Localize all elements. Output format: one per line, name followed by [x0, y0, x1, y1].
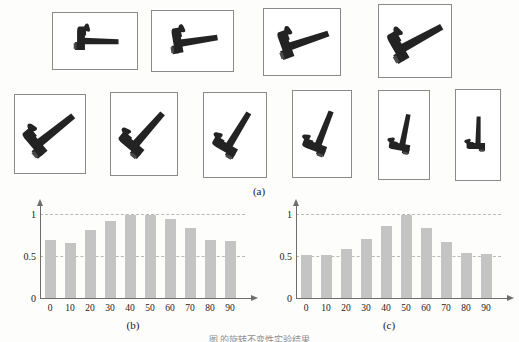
hammer-frame-30: [378, 4, 452, 78]
hammer-frame-90: [455, 89, 501, 181]
panel-a-label: (a): [234, 185, 284, 197]
bar-60: [165, 219, 176, 299]
chart-b-xtick-40: 40: [121, 303, 139, 313]
chart-c-gridline-1: [296, 214, 501, 215]
hammer-frame-0: [52, 12, 138, 70]
chart-b-xtick-20: 20: [81, 303, 99, 313]
bar-40: [125, 215, 136, 299]
chart-c-ytick-1: 1: [266, 209, 292, 220]
chart-c-xtick-70: 70: [437, 303, 455, 313]
bar-0: [301, 255, 312, 299]
chart-b-caption: (b): [8, 319, 258, 331]
chart-c-xtick-60: 60: [417, 303, 435, 313]
chart-c-xtick-10: 10: [317, 303, 335, 313]
chart-c-x-axis: [296, 298, 508, 299]
chart-b-xtick-90: 90: [221, 303, 239, 313]
chart-c-ytick-0: 0: [266, 293, 292, 304]
bar-70: [441, 242, 452, 299]
chart-b-ytick-0.5: 0.5: [10, 251, 36, 262]
chart-b-y-axis: [40, 205, 41, 299]
chart-b-ytick-1: 1: [10, 209, 36, 220]
bar-10: [321, 255, 332, 299]
chart-c-plot-area: [296, 211, 496, 299]
bar-30: [105, 221, 116, 299]
hammer-frame-40: [14, 94, 86, 174]
chart-c-y-axis: [296, 205, 297, 299]
bar-0: [45, 240, 56, 299]
chart-c-xtick-20: 20: [337, 303, 355, 313]
chart-c-caption: (c): [264, 319, 514, 331]
bar-80: [461, 253, 472, 299]
chart-b-xtick-80: 80: [201, 303, 219, 313]
chart-b-xtick-10: 10: [61, 303, 79, 313]
chart-b-xtick-60: 60: [161, 303, 179, 313]
bar-40: [381, 226, 392, 299]
chart-b-ytick-0: 0: [10, 293, 36, 304]
chart-b-gridline-1: [40, 214, 245, 215]
chart-b-x-axis: [40, 298, 252, 299]
bar-50: [401, 215, 412, 299]
chart-c-xtick-40: 40: [377, 303, 395, 313]
hammer-gallery: [0, 0, 519, 200]
hammer-frame-60: [203, 92, 267, 178]
hammer-frame-70: [292, 90, 352, 178]
hammer-frame-50: [110, 92, 178, 176]
bar-70: [185, 228, 196, 299]
chart-b-xtick-70: 70: [181, 303, 199, 313]
chart-c-xtick-30: 30: [357, 303, 375, 313]
chart-b-xtick-50: 50: [141, 303, 159, 313]
bar-10: [65, 243, 76, 299]
figure-caption: 图 的旋转不变性实验结果: [0, 333, 519, 342]
bar-30: [361, 239, 372, 299]
hammer-frame-80: [378, 90, 430, 180]
bar-90: [481, 254, 492, 299]
bar-20: [341, 249, 352, 299]
chart-c-xtick-50: 50: [397, 303, 415, 313]
chart-b: 00.510102030405060708090(b): [8, 205, 258, 325]
chart-b-plot-area: [40, 211, 240, 299]
chart-c-xtick-90: 90: [477, 303, 495, 313]
hammer-frame-10: [151, 10, 234, 72]
hammer-frame-20: [263, 8, 341, 76]
chart-b-xtick-30: 30: [101, 303, 119, 313]
chart-c-ytick-0.5: 0.5: [266, 251, 292, 262]
bar-50: [145, 215, 156, 299]
chart-b-xtick-0: 0: [41, 303, 59, 313]
chart-c-xtick-80: 80: [457, 303, 475, 313]
chart-c: 00.510102030405060708090(c): [264, 205, 514, 325]
bar-80: [205, 240, 216, 299]
bar-90: [225, 241, 236, 299]
bar-60: [421, 228, 432, 299]
bar-20: [85, 230, 96, 299]
figure-page: (a) 00.510102030405060708090(b) 00.51010…: [0, 0, 519, 342]
chart-c-xtick-0: 0: [297, 303, 315, 313]
